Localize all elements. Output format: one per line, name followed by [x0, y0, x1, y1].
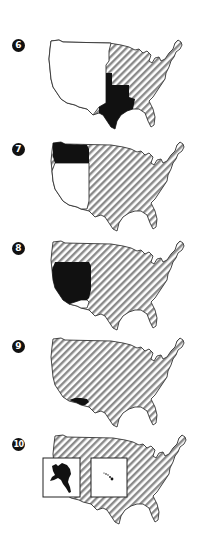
unacquired-region [52, 163, 89, 209]
alaska-inset [43, 458, 80, 497]
map-panel-8 [51, 241, 184, 330]
unacquired-region [49, 40, 111, 115]
map-panel-6 [49, 40, 182, 129]
hawaii-inset [91, 458, 127, 497]
maps-svg [0, 0, 199, 539]
hawaii-island [107, 474, 108, 475]
map-panel-7 [51, 142, 184, 231]
map-panel-9 [51, 338, 184, 427]
hawaii-island [111, 478, 114, 481]
hawaii-island [103, 472, 104, 473]
hawaii-island [105, 473, 107, 475]
mexican-cession-region [52, 262, 91, 304]
territorial-expansion-figure: 6 7 8 9 10 [0, 0, 199, 539]
oregon-territory-region [53, 142, 89, 163]
hawaii-inset-frame [91, 458, 127, 497]
hawaii-island [109, 476, 111, 478]
existing-states-hatched [51, 338, 184, 427]
